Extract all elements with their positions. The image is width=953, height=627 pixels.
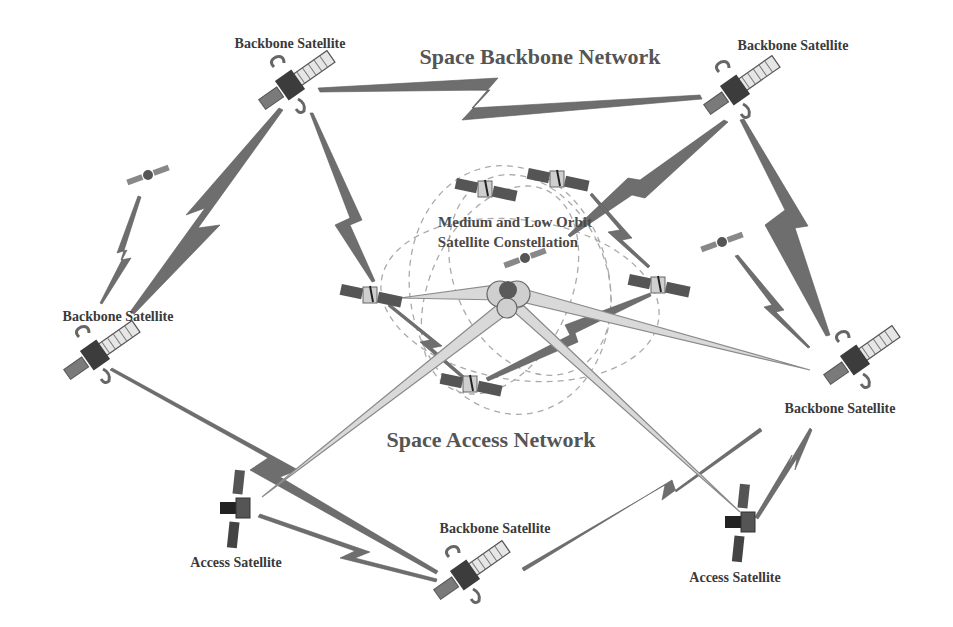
backbone-satellite-icon-top-left bbox=[258, 51, 335, 113]
access-satellite-icon-left bbox=[220, 470, 250, 549]
backbone-satellite-icon-right bbox=[823, 326, 900, 388]
backbone-satellite-icon-left bbox=[63, 321, 140, 383]
access-network-title: Space Access Network bbox=[387, 427, 596, 453]
backbone-satellite-label-right: Backbone Satellite bbox=[785, 401, 896, 417]
space-network-diagram: Space Backbone Network Space Access Netw… bbox=[0, 0, 953, 627]
access-satellite-label-right: Access Satellite bbox=[689, 570, 780, 586]
access-beams bbox=[262, 285, 810, 512]
backbone-satellite-label-bottom: Backbone Satellite bbox=[440, 521, 551, 537]
leo-satellite-icon bbox=[628, 274, 691, 298]
backbone-network-title: Space Backbone Network bbox=[420, 44, 661, 70]
small-satellite-icon-top-left bbox=[126, 165, 169, 186]
backbone-satellite-icon-bottom bbox=[433, 541, 510, 603]
backbone-satellite-label-left: Backbone Satellite bbox=[63, 309, 174, 325]
small-satellite-icon-right bbox=[700, 232, 743, 253]
access-satellite-label-left: Access Satellite bbox=[190, 555, 281, 571]
leo-satellite-icon bbox=[527, 168, 590, 192]
constellation-label-line2: Satellite Constellation bbox=[438, 232, 578, 252]
backbone-satellite-label-top-left: Backbone Satellite bbox=[235, 36, 346, 52]
leo-satellite-icon bbox=[340, 284, 403, 308]
backbone-satellite-icon-top-right bbox=[703, 56, 780, 118]
backbone-satellite-label-top-right: Backbone Satellite bbox=[738, 38, 849, 54]
access-satellite-icon-right bbox=[725, 484, 755, 563]
constellation-label-line1: Medium and Low Orbit bbox=[438, 212, 592, 232]
backbone-links bbox=[100, 78, 830, 582]
